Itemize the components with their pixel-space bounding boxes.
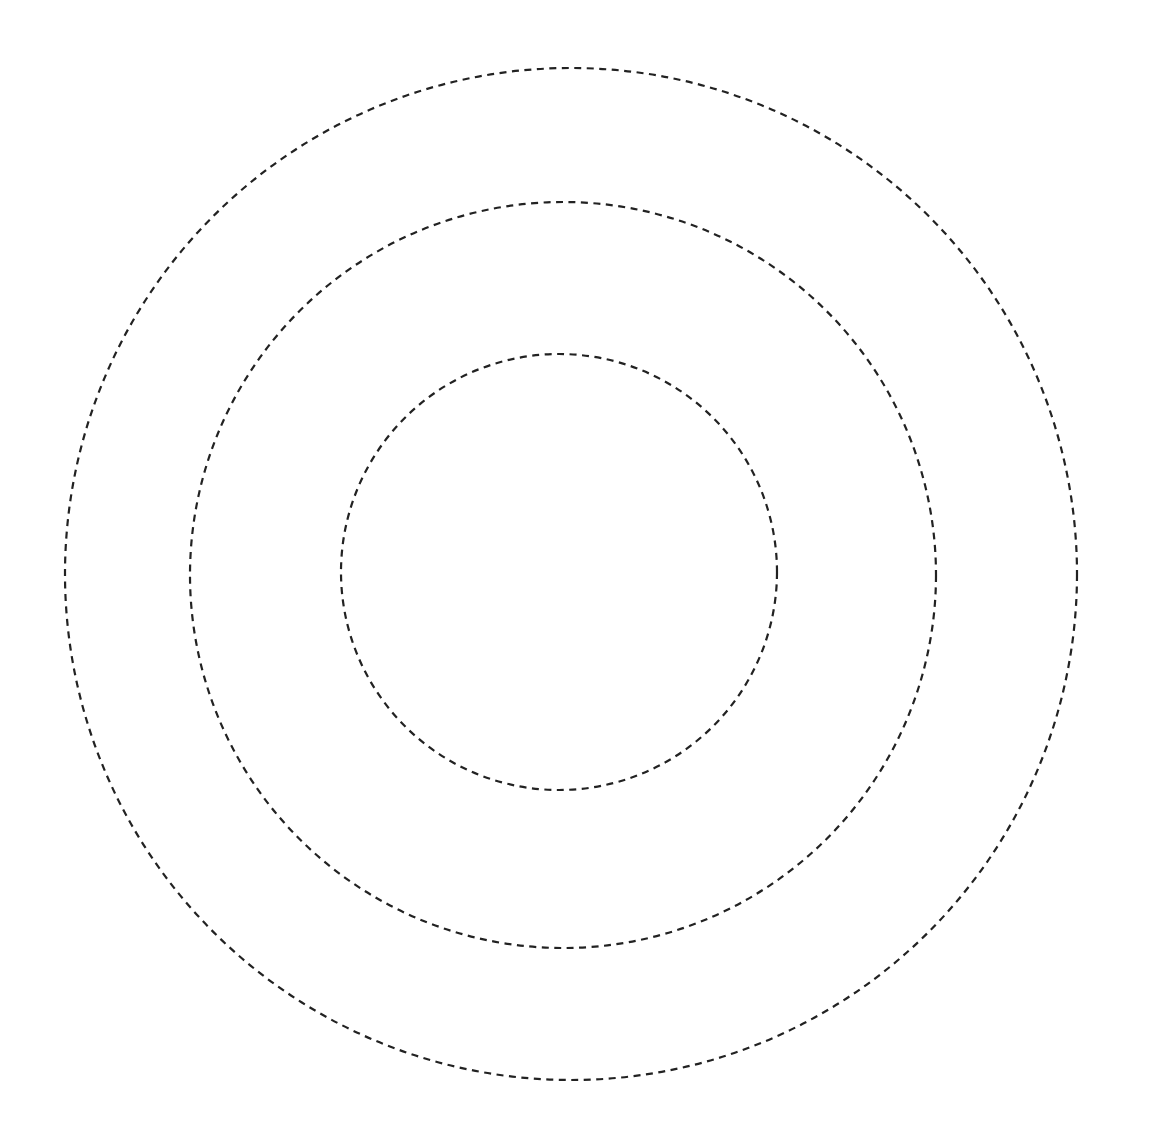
concentric-circles-diagram — [0, 0, 1150, 1136]
background — [0, 0, 1150, 1136]
